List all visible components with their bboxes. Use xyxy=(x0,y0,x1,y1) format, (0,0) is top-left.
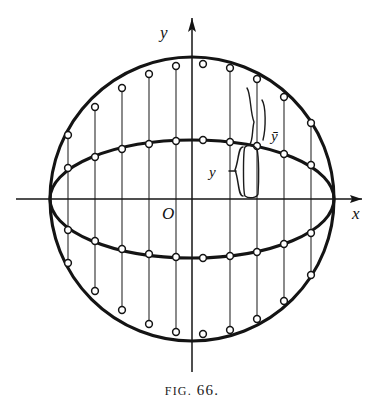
node-circle-icon xyxy=(173,138,180,145)
node-circle-icon xyxy=(227,327,234,334)
node-circle-icon xyxy=(254,76,261,83)
brace-icon-y-bar xyxy=(247,88,265,144)
node-circle-icon xyxy=(200,331,207,338)
node-circle-icon xyxy=(227,65,234,72)
node-circle-icon xyxy=(146,251,153,258)
x-axis-label: x xyxy=(351,204,360,223)
node-circle-icon xyxy=(200,255,207,262)
node-circle-icon xyxy=(308,230,315,237)
node-circle-icon xyxy=(173,63,180,70)
node-circle-icon xyxy=(254,249,261,256)
node-circle-icon xyxy=(308,162,315,169)
figure-page: y x O y ȳ FIG. 66. xyxy=(0,0,384,418)
inner-strip-outline xyxy=(244,145,259,197)
brace-icon-y xyxy=(229,147,243,196)
node-circle-icon xyxy=(254,316,261,323)
node-circle-icon xyxy=(227,139,234,146)
y-axis-label: y xyxy=(158,23,168,42)
node-circle-icon xyxy=(65,165,72,172)
node-circle-icon xyxy=(119,246,126,253)
ordinate-label-y-bar: ȳ xyxy=(269,128,278,144)
node-circle-icon xyxy=(308,120,315,127)
figure-caption-prefix: FIG. xyxy=(165,384,192,398)
node-circle-icon xyxy=(200,137,207,144)
node-circle-icon xyxy=(281,151,288,158)
figure-caption-number: 66. xyxy=(197,382,219,398)
node-circle-icon xyxy=(65,260,72,267)
node-circle-icon xyxy=(92,288,99,295)
node-circle-icon xyxy=(92,154,99,161)
node-circle-icon xyxy=(119,307,126,314)
node-circle-icon xyxy=(119,85,126,92)
figure-66-drawing: y x O y ȳ xyxy=(0,0,384,418)
node-circle-icon xyxy=(92,104,99,111)
node-circle-icon xyxy=(200,61,207,68)
node-circle-icon xyxy=(119,146,126,153)
node-circle-icon xyxy=(173,254,180,261)
ordinate-label-y: y xyxy=(207,164,216,180)
node-circle-icon xyxy=(227,253,234,260)
node-circle-icon xyxy=(146,321,153,328)
node-circle-icon xyxy=(173,329,180,336)
node-circle-icon xyxy=(281,298,288,305)
node-circle-icon xyxy=(281,94,288,101)
node-circle-icon xyxy=(281,241,288,248)
node-circle-icon xyxy=(308,272,315,279)
origin-label: O xyxy=(162,204,174,223)
figure-caption: FIG. 66. xyxy=(0,382,384,399)
node-circle-icon xyxy=(146,141,153,148)
node-circle-icon xyxy=(92,238,99,245)
node-circle-icon xyxy=(146,71,153,78)
node-circle-icon xyxy=(65,132,72,139)
node-circle-icon xyxy=(65,227,72,234)
